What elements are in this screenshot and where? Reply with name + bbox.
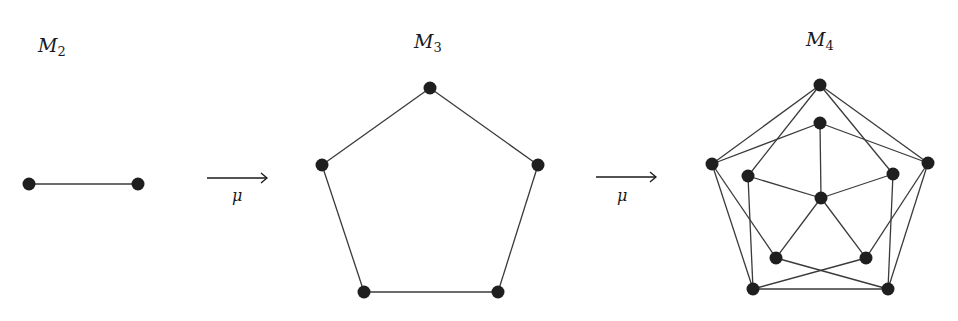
graph-node [742, 170, 755, 183]
mu-arrow-2: μ [596, 172, 656, 205]
graph-node [132, 178, 145, 191]
graph-m4-title: M4 [805, 28, 834, 53]
graph-m4: M4 [706, 28, 935, 296]
graph-node [815, 192, 828, 205]
graph-edge [712, 85, 820, 164]
graph-edge [821, 198, 866, 258]
mu-arrow-1: μ [207, 173, 267, 205]
graph-m4-edges [712, 85, 928, 289]
graph-edge [322, 165, 364, 292]
graph-edge [888, 174, 893, 289]
graph-m3-edges [322, 88, 538, 292]
graph-node [860, 252, 873, 265]
graph-node [887, 168, 900, 181]
graph-edge [821, 174, 893, 198]
graph-edge [776, 258, 888, 289]
graph-node [492, 286, 505, 299]
graph-node [706, 158, 719, 171]
graph-node [814, 117, 827, 130]
graph-edge [322, 88, 430, 165]
graph-m4-nodes [706, 79, 935, 296]
graph-edge [820, 123, 821, 198]
mu-label: μ [232, 186, 242, 205]
graph-edge [748, 176, 821, 198]
graph-node [532, 159, 545, 172]
graph-node [358, 286, 371, 299]
graph-edge [430, 88, 538, 165]
graph-edge [712, 123, 820, 164]
graph-m2: M2 [23, 34, 145, 191]
mycielski-diagram: M2 M3 M4 μ μ [0, 0, 958, 321]
graph-node [882, 283, 895, 296]
graph-node [922, 157, 935, 170]
graph-edge [712, 164, 753, 289]
graph-node [424, 82, 437, 95]
mu-label: μ [617, 186, 627, 205]
graph-node [814, 79, 827, 92]
graph-m3: M3 [316, 30, 545, 299]
graph-edge [820, 123, 928, 163]
graph-edge [888, 163, 928, 289]
graph-edge [753, 258, 866, 289]
graph-node [23, 178, 36, 191]
graph-m3-title: M3 [413, 30, 442, 55]
graph-edge [776, 198, 821, 258]
graph-edge [498, 165, 538, 292]
graph-node [770, 252, 783, 265]
graph-node [316, 159, 329, 172]
graph-m3-nodes [316, 82, 545, 299]
graph-edge [748, 176, 753, 289]
graph-node [747, 283, 760, 296]
graph-m2-title: M2 [37, 34, 66, 59]
